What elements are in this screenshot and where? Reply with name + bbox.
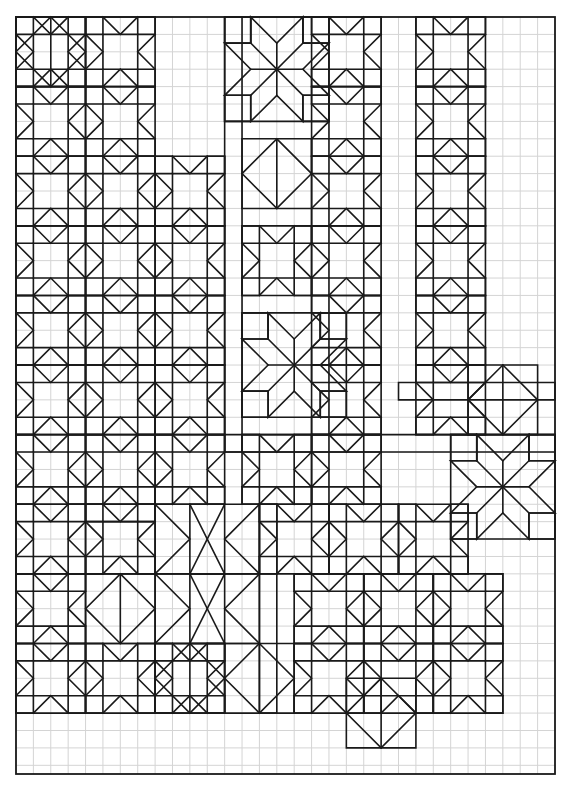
quilt-pattern-canvas	[0, 0, 570, 789]
